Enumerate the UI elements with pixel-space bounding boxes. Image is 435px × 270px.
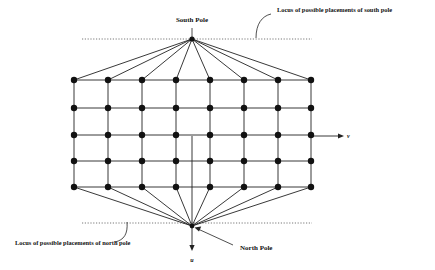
grid-node — [275, 105, 281, 111]
grid-node — [275, 132, 281, 138]
diagram-figure: South Pole North Pole Locus of possible … — [0, 0, 435, 270]
grid-node — [275, 77, 281, 83]
grid-node — [71, 132, 77, 138]
grid-node — [105, 132, 111, 138]
south-pole-label: South Pole — [176, 16, 208, 24]
grid-node — [308, 77, 314, 83]
grid-node — [71, 77, 77, 83]
grid-node — [207, 105, 213, 111]
grid-node — [207, 158, 213, 164]
grid-node — [241, 77, 247, 83]
grid-node — [308, 184, 314, 190]
grid-node — [105, 184, 111, 190]
grid-node — [71, 105, 77, 111]
grid-node — [105, 77, 111, 83]
grid-node — [241, 105, 247, 111]
sphere-grid-diagram: South Pole North Pole Locus of possible … — [0, 0, 435, 270]
grid-node — [139, 105, 145, 111]
grid-node — [241, 158, 247, 164]
grid-node — [71, 184, 77, 190]
grid-node — [308, 132, 314, 138]
grid-node — [173, 105, 179, 111]
grid-node — [139, 184, 145, 190]
grid-node — [105, 158, 111, 164]
grid-node — [139, 132, 145, 138]
grid-node — [207, 77, 213, 83]
north-pole-label: North Pole — [240, 244, 272, 252]
grid-node — [308, 105, 314, 111]
grid-node — [173, 184, 179, 190]
grid-node — [241, 184, 247, 190]
grid-node — [173, 132, 179, 138]
grid-node — [105, 105, 111, 111]
grid-node — [308, 158, 314, 164]
grid-node — [71, 158, 77, 164]
grid-node — [173, 158, 179, 164]
axis-v-label: v — [347, 133, 350, 139]
grid-node — [275, 184, 281, 190]
grid-node — [207, 184, 213, 190]
grid-node — [139, 77, 145, 83]
grid-node — [207, 132, 213, 138]
locus-south-label: Locus of possible placements of south po… — [277, 6, 392, 13]
locus-north-label: Locus of possible placements of north po… — [15, 239, 131, 246]
grid-node — [275, 158, 281, 164]
grid-node — [241, 132, 247, 138]
grid-node — [173, 77, 179, 83]
north-pole-node — [190, 224, 195, 229]
grid-node — [139, 158, 145, 164]
